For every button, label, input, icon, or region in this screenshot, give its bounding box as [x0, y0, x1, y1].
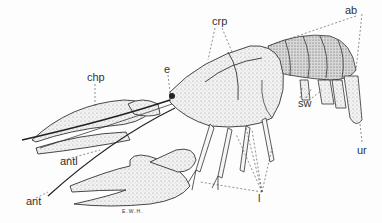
crayfish-drawing	[0, 0, 382, 223]
eye	[169, 93, 175, 99]
label-ab: ab	[345, 5, 357, 16]
label-ant: ant	[26, 196, 41, 207]
carapace	[170, 46, 284, 127]
crayfish-figure: chp e crp ab sw ur antl ant l E.W.H.	[0, 0, 382, 223]
label-crp: crp	[212, 16, 227, 27]
label-l: l	[258, 193, 260, 204]
label-chp: chp	[87, 72, 105, 83]
lower-claw	[70, 149, 196, 206]
label-antl: antl	[60, 156, 78, 167]
walking-legs	[186, 118, 274, 190]
label-ur: ur	[357, 145, 367, 156]
label-e: e	[164, 64, 170, 75]
label-sw: sw	[298, 98, 311, 109]
artist-signature: E.W.H.	[122, 208, 144, 214]
